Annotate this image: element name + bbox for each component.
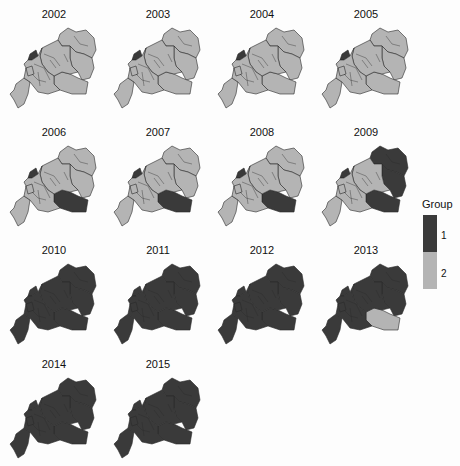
region-map — [4, 142, 104, 230]
region-map — [316, 260, 416, 348]
panel-title: 2002 — [0, 8, 108, 20]
region-map — [108, 374, 208, 462]
panel-title: 2015 — [104, 358, 212, 370]
panel-title: 2014 — [0, 358, 108, 370]
legend-swatch-1 — [423, 215, 437, 252]
region-map — [4, 374, 104, 462]
legend-colorbar — [423, 215, 437, 289]
legend-label-1: 1 — [441, 230, 447, 241]
map-panel-2004: 2004 — [208, 0, 316, 115]
region-south-west — [10, 314, 30, 344]
map-panel-2008: 2008 — [208, 118, 316, 233]
region-south-west — [114, 314, 134, 344]
region-south-west — [10, 196, 30, 226]
region-map — [108, 260, 208, 348]
region-south-west — [218, 196, 238, 226]
map-panel-2006: 2006 — [0, 118, 108, 233]
map-panel-2003: 2003 — [104, 0, 212, 115]
panel-title: 2008 — [208, 126, 316, 138]
panel-title: 2013 — [312, 244, 420, 256]
region-south-west — [218, 78, 238, 108]
region-south-west — [114, 78, 134, 108]
map-panel-2013: 2013 — [312, 236, 420, 351]
region-map — [108, 24, 208, 112]
region-south-west — [322, 78, 342, 108]
legend-title: Group — [422, 198, 460, 210]
legend-label-2: 2 — [441, 268, 447, 279]
region-map — [4, 24, 104, 112]
map-panel-2007: 2007 — [104, 118, 212, 233]
map-panel-2014: 2014 — [0, 350, 108, 465]
region-south-west — [322, 196, 342, 226]
region-map — [316, 24, 416, 112]
region-south-west — [114, 428, 134, 458]
region-south-west — [10, 428, 30, 458]
panel-title: 2005 — [312, 8, 420, 20]
panel-title: 2003 — [104, 8, 212, 20]
region-south-west — [218, 314, 238, 344]
region-south-west — [322, 314, 342, 344]
legend: Group 1 2 — [420, 198, 460, 210]
map-panel-2012: 2012 — [208, 236, 316, 351]
panel-title: 2007 — [104, 126, 212, 138]
panel-title: 2010 — [0, 244, 108, 256]
region-map — [4, 260, 104, 348]
panel-title: 2011 — [104, 244, 212, 256]
map-panel-2002: 2002 — [0, 0, 108, 115]
panel-title: 2004 — [208, 8, 316, 20]
region-map — [212, 260, 312, 348]
map-panel-2011: 2011 — [104, 236, 212, 351]
region-south-west — [114, 196, 134, 226]
map-panel-2009: 2009 — [312, 118, 420, 233]
region-map — [212, 142, 312, 230]
region-south-west — [10, 78, 30, 108]
panel-title: 2012 — [208, 244, 316, 256]
legend-swatch-2 — [423, 252, 437, 289]
panel-title: 2009 — [312, 126, 420, 138]
map-panel-2005: 2005 — [312, 0, 420, 115]
map-panel-2015: 2015 — [104, 350, 212, 465]
map-panel-2010: 2010 — [0, 236, 108, 351]
region-map — [212, 24, 312, 112]
panel-title: 2006 — [0, 126, 108, 138]
region-map — [316, 142, 416, 230]
region-map — [108, 142, 208, 230]
